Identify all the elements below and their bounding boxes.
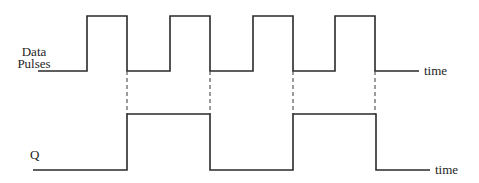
q-waveform (33, 114, 430, 170)
data-pulses-waveform (38, 16, 419, 71)
edge-guide-lines (127, 71, 375, 114)
data-pulses-label-line2: Pulses (17, 56, 50, 71)
time-axis-label-bottom: time (435, 162, 458, 177)
time-axis-label-top: time (424, 63, 447, 78)
timing-diagram: Data Pulses time Q time (0, 0, 479, 183)
q-label: Q (30, 147, 40, 162)
